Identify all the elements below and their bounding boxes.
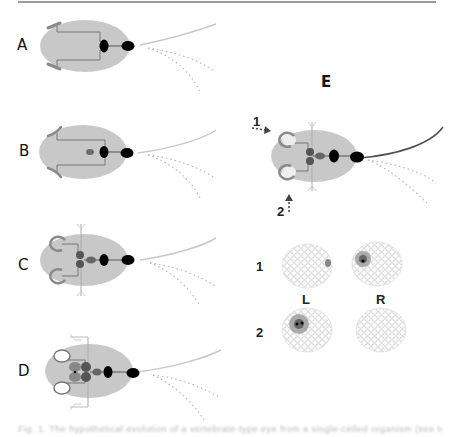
basal-body	[122, 41, 135, 51]
diagram-canvas	[0, 0, 460, 437]
light-arrow-2	[285, 194, 293, 212]
retina-1-right	[352, 242, 402, 286]
retina-2-left	[282, 308, 332, 352]
flagellum-dark	[360, 127, 443, 158]
organism-d	[45, 334, 221, 420]
retina-2-right	[356, 308, 406, 352]
retina-1-left	[282, 244, 332, 288]
activation-spot	[325, 259, 331, 267]
light-arrow-1	[252, 126, 271, 134]
organism-a	[40, 20, 216, 92]
organism-e	[271, 122, 443, 204]
organism-c	[40, 224, 216, 306]
organism-b	[39, 125, 216, 198]
figure-caption: Fig. 1. The hypothetical evolution of a …	[18, 424, 442, 437]
eyespot	[100, 40, 109, 53]
